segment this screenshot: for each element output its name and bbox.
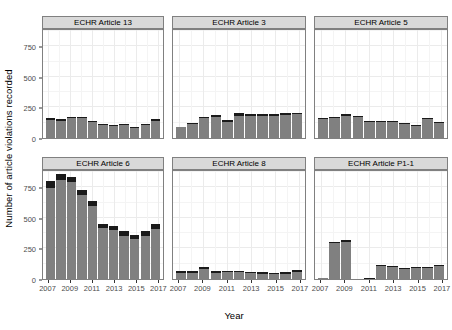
bar-segment-lower [269,116,279,138]
x-tick-label: 2009 [194,284,211,293]
facet-panel-echr-article-5: ECHR Article 5 [310,14,452,155]
bar-segment-lower [245,273,255,279]
bar [341,114,351,138]
x-tick-label: 2011 [219,284,235,293]
facet-strip-label: ECHR Article 3 [212,19,265,27]
bar [46,118,55,138]
y-tick-label: 0 [32,135,36,144]
bar [141,231,150,279]
bar-segment-lower [176,273,186,279]
bar [364,278,374,279]
bar [329,242,339,279]
bar-segment-lower [329,243,339,279]
facet-strip: ECHR Article 8 [172,157,306,170]
bar [434,122,444,138]
bar [109,226,118,279]
bar-series [43,30,163,138]
bar-segment-lower [119,125,128,138]
facet-panel-echr-article-8: ECHR Article 8200720092011201320152017 [168,155,310,296]
bar [318,118,328,138]
x-tick-mark [344,280,345,283]
bar [222,271,232,279]
bar [176,127,186,138]
bar [292,113,302,138]
bar-series [43,171,163,279]
bar [387,266,397,279]
x-axis-title: Year [16,310,452,321]
bar [98,224,107,279]
facet-strip: ECHR Article 5 [314,16,448,29]
bar [376,121,386,138]
bar [187,271,197,279]
bar-series [173,30,305,138]
x-tick-label: 2015 [409,284,426,293]
bar-segment-lower [399,269,409,280]
bar-segment-lower [411,126,421,138]
x-tick-label: 2015 [128,284,145,293]
bar [399,268,409,279]
bar [269,114,279,138]
bar-segment-lower [387,267,397,279]
bar-segment-lower [364,122,374,138]
bar-segment-lower [67,118,76,138]
bar [176,271,186,279]
x-tick-mark [136,280,137,283]
chart-figure: Number of article violations recorded EC… [0,0,452,330]
facet-strip-label: ECHR Article 13 [74,19,132,27]
bar-segment-lower [434,266,444,279]
y-tick-label: 250 [23,104,36,113]
bar [56,174,65,279]
bar-segment-lower [257,116,267,138]
facet-row: ECHR Article 602505007502007200920112013… [16,155,452,296]
y-tick-mark [39,218,42,219]
bar-segment-upper [46,181,55,188]
bar-segment-lower [130,128,139,139]
bar-segment-lower [98,228,107,279]
bar [257,114,267,138]
bar [318,278,328,279]
x-tick-label: 2007 [170,284,187,293]
y-tick-mark [39,249,42,250]
bar [280,113,290,138]
bar [353,116,363,138]
bar [141,124,150,138]
bar-segment-lower [98,125,107,138]
bar-series [315,171,447,279]
bar-segment-lower [151,229,160,279]
x-tick-label: 2011 [361,284,377,293]
bar-segment-lower [329,118,339,138]
bar-series [173,171,305,279]
y-axis: 0250500750 [16,29,42,139]
bar [280,272,290,279]
bar-segment-lower [422,119,432,138]
bar [364,121,374,138]
x-tick-label: 2009 [336,284,353,293]
bar-segment-lower [187,124,197,138]
y-tick-label: 250 [23,245,36,254]
bar [329,117,339,138]
bar-segment-lower [141,236,150,279]
x-tick-mark [251,280,252,283]
facet-panel-echr-article-6: ECHR Article 602505007502007200920112013… [16,155,168,296]
bar-segment-lower [292,272,302,279]
x-tick-label: 2013 [243,284,260,293]
facet-strip: ECHR Article 6 [42,157,164,170]
x-tick-label: 2011 [84,284,100,293]
bar [199,267,209,279]
bar-segment-lower [77,118,86,138]
facet-strip: ECHR Article 3 [172,16,306,29]
x-tick-mark [114,280,115,283]
x-tick-mark [92,280,93,283]
bar [422,267,432,279]
x-tick-mark [227,280,228,283]
bar [387,121,397,138]
x-tick-mark [418,280,419,283]
bar-segment-lower [341,116,351,138]
bar-segment-lower [199,118,209,138]
bar [257,272,267,279]
bar-segment-lower [422,268,432,279]
x-tick-mark [48,280,49,283]
bar-segment-lower [292,114,302,138]
facet-row: ECHR Article 130250500750ECHR Article 3E… [16,14,452,155]
y-tick-label: 500 [23,214,36,223]
